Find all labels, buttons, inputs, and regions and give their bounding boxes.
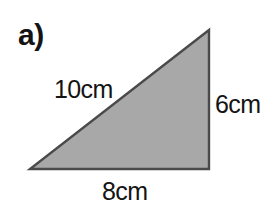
vertical-side-length-label: 6cm	[215, 92, 260, 117]
base-length-label: 8cm	[102, 179, 147, 204]
part-label: a)	[18, 20, 44, 50]
hypotenuse-length-label: 10cm	[54, 77, 113, 102]
figure-page: a) 10cm 6cm 8cm	[0, 0, 268, 210]
